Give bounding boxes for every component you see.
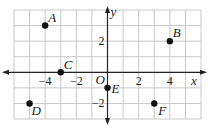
point-f xyxy=(151,100,157,106)
x-tick-label: 2 xyxy=(136,74,142,88)
x-tick-label: 4 xyxy=(167,74,173,88)
origin-label: O xyxy=(96,72,106,87)
y-tick-label: 2 xyxy=(99,34,105,48)
x-tick-label: −4 xyxy=(39,74,52,88)
y-tick-label: −2 xyxy=(92,96,105,110)
x-tick-label: −2 xyxy=(70,74,83,88)
coordinate-plane: −4−2242−2 ABCDEF x y O xyxy=(0,0,211,130)
point-label-f: F xyxy=(157,103,167,118)
y-axis-label: y xyxy=(109,4,117,19)
point-label-b: B xyxy=(173,25,181,40)
point-e xyxy=(104,85,110,91)
point-label-e: E xyxy=(111,81,120,96)
point-label-c: C xyxy=(64,57,73,72)
point-label-a: A xyxy=(47,10,56,25)
x-axis-label: x xyxy=(190,73,197,88)
point-label-d: D xyxy=(31,103,42,118)
